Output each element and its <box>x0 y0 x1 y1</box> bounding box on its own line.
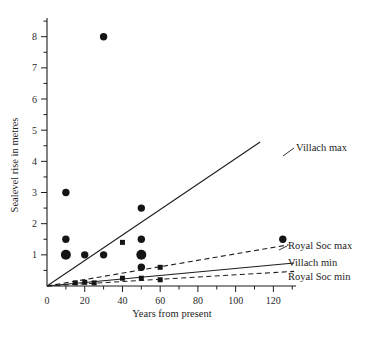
data-point-square <box>158 265 163 270</box>
x-tick-label: 20 <box>80 295 90 306</box>
axes-group <box>47 18 296 286</box>
trend-lines-group <box>47 142 294 286</box>
y-tick-label: 5 <box>32 125 37 136</box>
series-label-villach-min: Villach min <box>288 257 338 268</box>
y-tick-label: 2 <box>32 218 37 229</box>
y-axis-title: Sealevel rise in metres <box>9 118 20 213</box>
data-point-circle <box>81 251 88 258</box>
y-tick-label: 6 <box>32 94 37 105</box>
data-point-circle <box>62 189 69 196</box>
data-point-square <box>120 240 125 245</box>
y-tick-label: 4 <box>32 156 37 167</box>
data-point-circle <box>138 236 145 243</box>
series-annotation-labels: Villach maxRoyal Soc maxVillach minRoyal… <box>288 142 353 282</box>
y-tick-label: 8 <box>32 31 37 42</box>
sealevel-rise-scatter-chart: 12345678 020406080100120 Years from pres… <box>0 0 376 340</box>
data-point-circle <box>279 236 286 243</box>
data-point-circle <box>100 251 107 258</box>
data-point-square <box>158 277 163 282</box>
data-point-square <box>82 280 87 285</box>
villach-max-leader <box>283 148 294 156</box>
x-tick-label: 0 <box>45 295 50 306</box>
series-label-villach-max: Villach max <box>296 142 348 153</box>
data-point-circle <box>136 250 146 260</box>
y-axis-ticks: 12345678 <box>32 21 47 270</box>
y-tick-label: 7 <box>32 62 37 73</box>
data-point-circle <box>100 33 107 40</box>
x-tick-label: 120 <box>266 295 281 306</box>
x-tick-label: 40 <box>117 295 127 306</box>
y-tick-label: 1 <box>32 249 37 260</box>
trend-line-villach-max <box>47 142 260 286</box>
series-label-royal-soc-min: Royal Soc min <box>288 271 351 282</box>
data-point-square <box>73 280 78 285</box>
x-axis-title: Years from present <box>132 308 211 319</box>
series-label-royal-soc-max: Royal Soc max <box>288 240 353 251</box>
x-tick-label: 80 <box>193 295 203 306</box>
label-leader-lines <box>279 148 294 250</box>
y-tick-label: 3 <box>32 187 37 198</box>
x-axis-ticks: 020406080100120 <box>45 286 293 306</box>
x-tick-label: 60 <box>155 295 165 306</box>
data-point-circle <box>62 236 69 243</box>
data-point-circle <box>138 204 145 211</box>
data-points-group <box>61 33 287 285</box>
data-point-square <box>92 280 97 285</box>
data-point-circle <box>138 264 145 271</box>
data-point-square <box>120 276 125 281</box>
data-point-circle <box>61 250 71 260</box>
data-point-square <box>139 276 144 281</box>
x-tick-label: 100 <box>228 295 243 306</box>
chart-canvas: 12345678 020406080100120 Years from pres… <box>0 0 376 340</box>
